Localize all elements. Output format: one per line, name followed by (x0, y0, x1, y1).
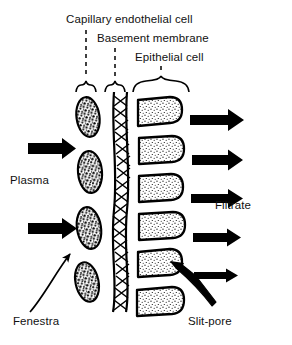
label-capillary-endothelial-cell: Capillary endothelial cell (66, 13, 193, 26)
plasma-arrow (28, 138, 76, 159)
endothelial-cell (72, 260, 103, 304)
filtrate-outflow-arrows (190, 109, 244, 283)
epithelial-cell (138, 97, 182, 126)
epithelial-cell (139, 174, 183, 202)
label-basement-membrane: Basement membrane (97, 32, 209, 45)
endothelial-cell (76, 150, 104, 194)
epithelial-cell (139, 136, 184, 164)
endothelial-cell (74, 96, 102, 139)
epithelial-cell (137, 287, 184, 316)
label-filtrate: Filtrate (215, 199, 251, 212)
plasma-inflow-arrows (28, 138, 77, 239)
label-slit-pore: Slit-pore (188, 315, 232, 328)
endothelial-cell (74, 205, 104, 250)
basement-membrane-column (113, 92, 130, 312)
filtrate-arrow (194, 269, 238, 283)
plasma-arrow (28, 218, 77, 239)
endothelial-cell-column (72, 96, 105, 304)
label-plasma: Plasma (10, 174, 49, 187)
label-fenestra: Fenestra (13, 315, 59, 328)
fenestra-leader (30, 254, 70, 312)
epithelial-cell (139, 212, 185, 240)
filtrate-arrow (192, 150, 243, 171)
filtrate-arrow (193, 229, 241, 247)
label-epithelial-cell: Epithelial cell (135, 51, 204, 64)
layer-braces (76, 76, 189, 92)
epithelial-cell-column (137, 97, 185, 316)
figure-canvas: Capillary endothelial cell Basement memb… (0, 0, 292, 345)
filtrate-arrow (190, 109, 244, 131)
